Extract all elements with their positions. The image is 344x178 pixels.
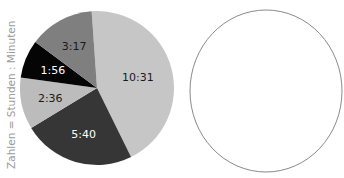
unit-note: Zahlen = Stunden : Minuten [5, 29, 19, 169]
slice-label: 2:36 [38, 92, 63, 105]
chart-area: Zahlen = Stunden : Minuten 10:315:402:36… [0, 0, 344, 178]
slice-label: 1:56 [40, 64, 65, 77]
pie-svg: 10:315:402:361:563:17 [0, 0, 344, 178]
filled-pie-chart: 10:315:402:361:563:17 [20, 11, 174, 165]
slice-label: 10:31 [122, 71, 154, 84]
empty-pie-circle [190, 10, 342, 172]
slice-label: 5:40 [71, 128, 96, 141]
slice-label: 3:17 [62, 40, 87, 53]
